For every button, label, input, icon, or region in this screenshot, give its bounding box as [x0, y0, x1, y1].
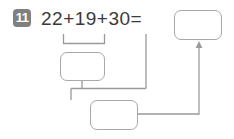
- answer-box-partial-2[interactable]: [90, 100, 138, 130]
- worksheet-problem: 11 22+19+30=: [0, 0, 234, 139]
- problem-number-badge: 11: [13, 9, 31, 27]
- answer-box-partial-1[interactable]: [60, 52, 105, 81]
- arrow-head-icon: [196, 41, 203, 48]
- equation-expression: 22+19+30=: [41, 8, 142, 30]
- connector-arrow-line: [138, 46, 199, 114]
- answer-box-total[interactable]: [174, 10, 222, 40]
- grouping-bracket-icon: [64, 34, 105, 44]
